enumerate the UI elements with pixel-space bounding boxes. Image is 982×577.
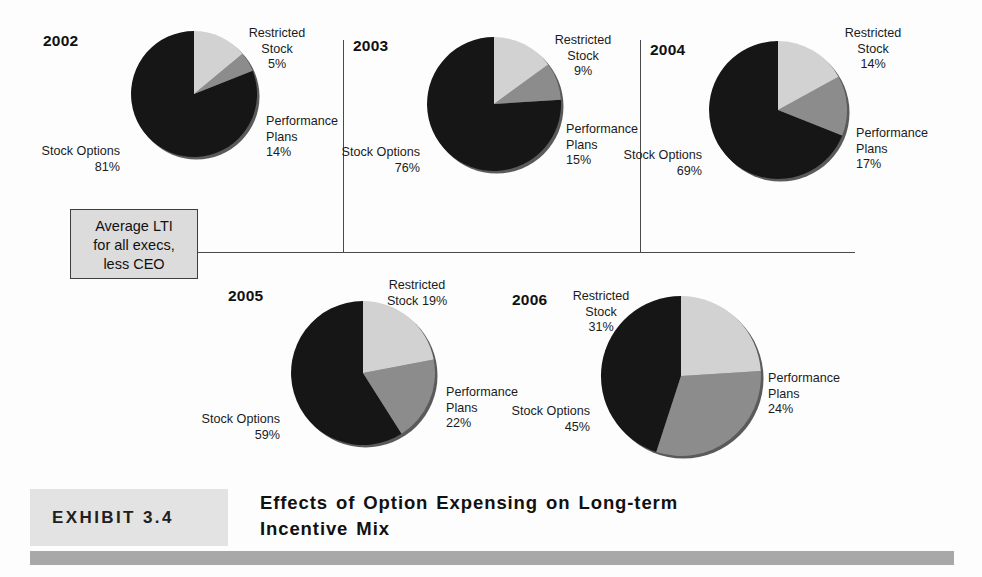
label-restricted-l1-2006: Restricted xyxy=(573,289,630,303)
label-stock-options-name-2002: Stock Options xyxy=(42,144,120,158)
label-stock-options-pct-2002: 81% xyxy=(95,160,120,174)
label-stock-options-pct-2003: 76% xyxy=(395,161,420,175)
pie-chart-2005 xyxy=(288,298,440,450)
year-label-2005: 2005 xyxy=(228,287,263,305)
label-restricted-pct-2003: 9% xyxy=(574,64,592,78)
label-performance-l1-2003: Performance xyxy=(566,122,638,136)
label-restricted-stock-2006: Restricted Stock 31% xyxy=(551,289,651,336)
label-performance-l1-2006: Performance xyxy=(768,371,840,385)
pie-slices-2005 xyxy=(291,301,435,445)
year-label-2004: 2004 xyxy=(650,41,685,59)
label-restricted-stock-2003: Restricted Stock 9% xyxy=(528,33,638,80)
label-stock-options-pct-2006: 45% xyxy=(565,420,590,434)
label-performance-l1-2004: Performance xyxy=(856,126,928,140)
pie-svg-2005 xyxy=(288,298,440,450)
label-stock-options-name-2006: Stock Options xyxy=(512,404,590,418)
connector-horizontal-rule xyxy=(197,252,855,253)
label-restricted-stock-2002: Restricted Stock 5% xyxy=(222,26,332,73)
label-restricted-l1-2004: Restricted xyxy=(845,26,902,40)
callout-line-3: less CEO xyxy=(103,256,164,272)
label-performance-pct-2002: 14% xyxy=(266,145,291,159)
exhibit-title-line-2: Incentive Mix xyxy=(260,518,390,539)
label-restricted-stock-2005: Restricted Stock 19% xyxy=(352,278,482,309)
label-stock-options-2003: Stock Options 76% xyxy=(300,145,420,176)
label-performance-pct-2005: 22% xyxy=(446,416,471,430)
label-stock-options-pct-2004: 69% xyxy=(677,164,702,178)
footer-accent-bar xyxy=(30,551,954,565)
label-restricted-pct-2002: 5% xyxy=(268,57,286,71)
label-stock-options-pct-2005: 59% xyxy=(255,428,280,442)
label-performance-l1-2005: Performance xyxy=(446,385,518,399)
label-restricted-l2-2005: Stock 19% xyxy=(387,294,447,308)
label-stock-options-2002: Stock Options 81% xyxy=(0,144,120,175)
label-restricted-pct-2004: 14% xyxy=(860,57,885,71)
label-stock-options-2004: Stock Options 69% xyxy=(582,148,702,179)
year-label-2003: 2003 xyxy=(353,37,388,55)
exhibit-tag: EXHIBIT 3.4 xyxy=(30,489,228,546)
label-restricted-pct-2006: 31% xyxy=(588,320,613,334)
year-label-2006: 2006 xyxy=(512,291,547,309)
label-stock-options-name-2005: Stock Options xyxy=(202,412,280,426)
label-stock-options-2005: Stock Options 59% xyxy=(160,412,280,443)
label-restricted-l2-2003: Stock xyxy=(567,49,599,63)
label-restricted-stock-2004: Restricted Stock 14% xyxy=(818,26,928,73)
label-performance-l1-2002: Performance xyxy=(266,114,338,128)
label-performance-plans-2004: Performance Plans 17% xyxy=(856,126,966,173)
label-performance-plans-2006: Performance Plans 24% xyxy=(768,371,878,418)
exhibit-title-line-1: Effects of Option Expensing on Long-term xyxy=(260,492,678,513)
label-performance-pct-2006: 24% xyxy=(768,402,793,416)
callout-average-lti: Average LTI for all execs, less CEO xyxy=(70,209,198,279)
label-stock-options-2006: Stock Options 45% xyxy=(470,404,590,435)
slice-performance-plans-2006 xyxy=(681,296,761,376)
label-restricted-l2-2004: Stock xyxy=(857,42,889,56)
exhibit-title: Effects of Option Expensing on Long-term… xyxy=(260,490,900,542)
label-performance-l2-2006: Plans xyxy=(768,387,800,401)
label-restricted-l1-2005: Restricted xyxy=(389,278,446,292)
label-performance-l2-2002: Plans xyxy=(266,130,298,144)
label-restricted-l2-2006: Stock xyxy=(585,305,617,319)
label-stock-options-name-2003: Stock Options xyxy=(342,145,420,159)
label-performance-pct-2004: 17% xyxy=(856,157,881,171)
label-restricted-l1-2003: Restricted xyxy=(555,33,612,47)
label-restricted-l2-2002: Stock xyxy=(261,42,293,56)
label-stock-options-name-2004: Stock Options xyxy=(624,148,702,162)
label-performance-l2-2004: Plans xyxy=(856,142,888,156)
exhibit-page: 2002 Stock Options 81% Restricted Stock … xyxy=(0,0,982,577)
callout-line-1: Average LTI xyxy=(95,218,173,234)
callout-line-2: for all execs, xyxy=(93,237,174,253)
year-label-2002: 2002 xyxy=(43,32,78,50)
label-restricted-l1-2002: Restricted xyxy=(249,26,306,40)
